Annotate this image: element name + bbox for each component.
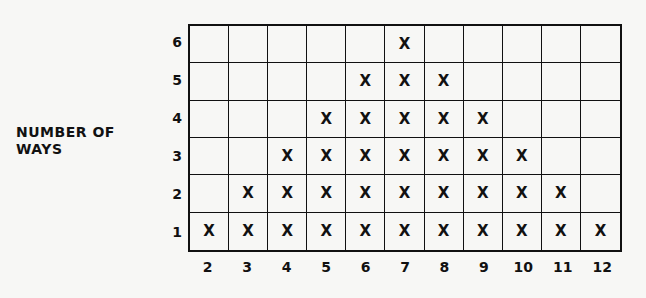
grid-cell [307, 26, 346, 63]
grid-cell [542, 63, 581, 100]
grid-cell [190, 101, 229, 138]
x-mark-icon: X [321, 147, 333, 165]
grid-cell: X [385, 26, 424, 63]
x-mark-icon: X [399, 110, 411, 128]
grid-cell: X [268, 138, 307, 175]
grid-cell [307, 63, 346, 100]
x-mark-icon: X [555, 222, 567, 240]
grid-cell [190, 63, 229, 100]
x-mark-icon: X [438, 110, 450, 128]
grid-cell: X [307, 138, 346, 175]
grid-cell [503, 101, 542, 138]
grid-cell: X [425, 175, 464, 212]
y-tick-label: 1 [166, 224, 182, 240]
x-mark-icon: X [321, 184, 333, 202]
x-mark-icon: X [399, 72, 411, 90]
x-mark-icon: X [321, 110, 333, 128]
grid-cell: X [190, 213, 229, 250]
grid-cell [268, 101, 307, 138]
grid-cell: X [425, 213, 464, 250]
grid-cell: X [503, 213, 542, 250]
x-mark-icon: X [477, 110, 489, 128]
grid-cell: X [385, 175, 424, 212]
x-tick-label: 2 [188, 259, 227, 275]
x-tick-label: 7 [386, 259, 425, 275]
grid-cell [581, 26, 620, 63]
x-mark-icon: X [399, 184, 411, 202]
grid-cell: X [464, 175, 503, 212]
x-tick-label: 5 [307, 259, 346, 275]
x-mark-icon: X [516, 222, 528, 240]
grid-cell [581, 63, 620, 100]
grid-cell [229, 138, 268, 175]
grid-cell [581, 101, 620, 138]
x-mark-icon: X [477, 147, 489, 165]
x-mark-icon: X [555, 184, 567, 202]
grid-cell [542, 138, 581, 175]
x-tick-label: 3 [228, 259, 267, 275]
grid-cell: X [229, 175, 268, 212]
x-mark-icon: X [360, 72, 372, 90]
grid-cell: X [307, 101, 346, 138]
grid-cell: X [385, 63, 424, 100]
grid-cell [581, 175, 620, 212]
grid-cell: X [503, 175, 542, 212]
grid-cell: X [464, 138, 503, 175]
grid-cell [542, 101, 581, 138]
grid-cell: X [581, 213, 620, 250]
grid-cell: X [346, 63, 385, 100]
grid-cell: X [542, 213, 581, 250]
grid-cell: X [346, 138, 385, 175]
grid-cell [581, 138, 620, 175]
x-mark-icon: X [477, 184, 489, 202]
grid-cell [464, 26, 503, 63]
grid-cell: X [385, 138, 424, 175]
x-tick-label: 12 [583, 259, 622, 275]
x-mark-icon: X [203, 222, 215, 240]
x-mark-icon: X [438, 222, 450, 240]
grid-cell: X [385, 213, 424, 250]
grid-cell: X [385, 101, 424, 138]
y-axis-label-line-1: NUMBER OF [16, 124, 115, 141]
x-mark-icon: X [438, 72, 450, 90]
x-mark-icon: X [399, 147, 411, 165]
x-mark-icon: X [360, 110, 372, 128]
grid-cell: X [503, 138, 542, 175]
x-tick-label: 10 [504, 259, 543, 275]
grid-cell [190, 175, 229, 212]
x-mark-icon: X [399, 35, 411, 53]
y-tick-label: 4 [166, 110, 182, 126]
grid-cell: X [268, 175, 307, 212]
x-mark-icon: X [595, 222, 607, 240]
grid-cell: X [425, 101, 464, 138]
grid-cell: X [268, 213, 307, 250]
grid-cell: X [542, 175, 581, 212]
grid-cell [268, 26, 307, 63]
x-mark-icon: X [516, 184, 528, 202]
x-mark-icon: X [242, 184, 254, 202]
x-mark-icon: X [360, 222, 372, 240]
y-tick-label: 5 [166, 72, 182, 88]
grid-cell [229, 101, 268, 138]
x-mark-icon: X [281, 222, 293, 240]
tally-grid: XXXXXXXXXXXXXXXXXXXXXXXXXXXXXXXXXXXX [188, 24, 622, 252]
x-mark-icon: X [281, 147, 293, 165]
x-tick-label: 11 [543, 259, 582, 275]
grid-cell [464, 63, 503, 100]
x-mark-icon: X [242, 222, 254, 240]
grid-cell: X [346, 101, 385, 138]
grid-cell [229, 26, 268, 63]
grid-cell: X [307, 213, 346, 250]
grid-cell: X [425, 63, 464, 100]
x-tick-label: 4 [267, 259, 306, 275]
x-mark-icon: X [360, 184, 372, 202]
grid-cell: X [346, 175, 385, 212]
y-tick-label: 6 [166, 34, 182, 50]
grid-cell [190, 138, 229, 175]
x-mark-icon: X [516, 147, 528, 165]
grid-cell: X [229, 213, 268, 250]
x-tick-label: 8 [425, 259, 464, 275]
y-axis-label-line-2: WAYS [16, 141, 115, 158]
x-mark-icon: X [438, 184, 450, 202]
grid-cell [190, 26, 229, 63]
